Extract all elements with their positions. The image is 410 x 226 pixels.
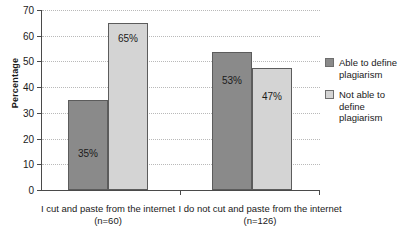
y-axis-title: Percentage [10,38,20,128]
gridline-60 [42,36,320,38]
bar-value-group1-not-able: 65% [109,33,147,44]
y-tick-mark-0 [37,190,41,191]
bar-group1-not-able[interactable]: 65% [108,23,148,190]
y-tick-mark-30 [37,113,41,114]
y-tick-label-50: 50 [23,56,34,67]
y-tick-label-70: 70 [23,5,34,16]
x-tick-mark-right [319,191,320,195]
y-tick-mark-20 [37,139,41,140]
bar-value-group2-not-able: 47% [253,91,291,102]
legend-swatch-not-able-icon [325,90,334,99]
y-tick-label-0: 0 [28,185,34,196]
legend-swatch-able-icon [325,58,334,67]
bar-value-group2-able: 53% [213,75,251,86]
gridline-50 [42,61,320,63]
x-tick-mark-mid [180,191,181,195]
gridline-70 [42,10,320,12]
y-tick-mark-60 [37,36,41,37]
bar-group2-able[interactable]: 53% [212,52,252,190]
legend-item-not-able[interactable]: Not able to define plagiarism [325,89,410,124]
x-category-label-2: I do not cut and paste from the internet… [174,203,346,226]
legend: Able to define plagiarism Not able to de… [325,57,410,133]
y-tick-label-60: 60 [23,31,34,42]
y-tick-label-20: 20 [23,134,34,145]
y-tick-mark-50 [37,61,41,62]
bar-group1-able[interactable]: 35% [68,100,108,190]
plot-area: 70 60 50 40 30 20 10 0 35% 65% 53% 47% I… [41,10,320,190]
y-tick-mark-10 [37,164,41,165]
y-tick-mark-40 [37,87,41,88]
bar-value-group1-able: 35% [69,148,107,159]
legend-item-able[interactable]: Able to define plagiarism [325,57,410,80]
y-tick-label-30: 30 [23,108,34,119]
legend-label-not-able: Not able to define plagiarism [339,89,410,124]
y-tick-label-10: 10 [23,159,34,170]
bar-group2-not-able[interactable]: 47% [252,68,292,190]
y-tick-label-40: 40 [23,82,34,93]
y-tick-mark-70 [37,10,41,11]
x-category-label-1: I cut and paste from the internet (n=60) [28,203,188,226]
y-axis-line [41,10,42,191]
bar-chart: Percentage 70 60 50 40 30 20 10 0 [0,0,410,226]
legend-label-able: Able to define plagiarism [339,57,410,80]
